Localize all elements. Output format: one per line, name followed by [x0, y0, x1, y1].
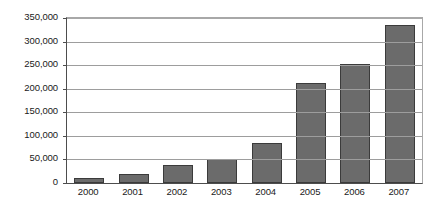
- gridline: [67, 42, 422, 43]
- bar: [252, 143, 282, 183]
- y-axis-tick-mark: [63, 65, 67, 66]
- bar: [119, 174, 149, 183]
- bars-layer: [67, 18, 422, 183]
- bar: [340, 64, 370, 183]
- x-axis-tick-label: 2000: [66, 186, 110, 198]
- y-axis-tick-label: 350,000: [0, 12, 58, 22]
- y-axis-tick-label: 200,000: [0, 83, 58, 93]
- gridline: [67, 18, 422, 19]
- gridline: [67, 89, 422, 90]
- y-axis-tick-label: 50,000: [0, 153, 58, 163]
- bar: [163, 165, 193, 183]
- x-axis-tick-label: 2003: [199, 186, 243, 198]
- x-axis-tick-label: 2007: [377, 186, 421, 198]
- gridline: [67, 159, 422, 160]
- y-axis-tick-mark: [63, 18, 67, 19]
- y-axis-tick-mark: [63, 112, 67, 113]
- x-axis-tick-label: 2001: [110, 186, 154, 198]
- x-axis-tick-label: 2004: [244, 186, 288, 198]
- x-axis-tick-label: 2005: [288, 186, 332, 198]
- y-axis-tick-mark: [63, 89, 67, 90]
- y-axis-tick-label: 150,000: [0, 106, 58, 116]
- bar-chart: 050,000100,000150,000200,000250,000300,0…: [0, 0, 437, 213]
- y-axis-tick-mark: [63, 183, 67, 184]
- y-axis-tick-label: 250,000: [0, 59, 58, 69]
- gridline: [67, 65, 422, 66]
- bar: [74, 178, 104, 183]
- x-axis-tick-label: 2006: [332, 186, 376, 198]
- y-axis-tick-label: 100,000: [0, 130, 58, 140]
- gridline: [67, 136, 422, 137]
- y-axis-tick-mark: [63, 159, 67, 160]
- gridline: [67, 112, 422, 113]
- x-axis: 20002001200220032004200520062007: [66, 186, 421, 202]
- y-axis: 050,000100,000150,000200,000250,000300,0…: [0, 0, 62, 213]
- y-axis-tick-label: 0: [0, 177, 58, 187]
- x-axis-tick-label: 2002: [155, 186, 199, 198]
- plot-area: [66, 17, 423, 184]
- y-axis-tick-mark: [63, 42, 67, 43]
- y-axis-tick-mark: [63, 136, 67, 137]
- bar: [207, 159, 237, 183]
- bar: [296, 83, 326, 183]
- y-axis-tick-label: 300,000: [0, 36, 58, 46]
